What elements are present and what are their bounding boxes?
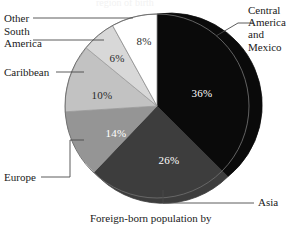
callout-label-asia[interactable]: Asia (258, 196, 278, 208)
figure-caption: Foreign-born population by (90, 212, 212, 224)
slice-label-central-america: 36% (192, 87, 213, 99)
slice-label-other: 8% (136, 35, 151, 47)
slice-label-south-america: 6% (109, 52, 124, 64)
callout-label-central-america[interactable]: Central America and Mexico (248, 4, 286, 53)
callout-label-caribbean[interactable]: Caribbean (4, 66, 49, 78)
callout-label-other[interactable]: Other (4, 12, 29, 24)
callout-label-europe[interactable]: Europe (4, 171, 36, 183)
slice-label-caribbean: 10% (92, 89, 113, 101)
callout-label-south-america[interactable]: South America (4, 25, 42, 49)
pie-chart-figure: region of birth 36% 26% 14% 10% 6% 8% Ot… (0, 0, 303, 229)
slice-label-europe: 14% (106, 127, 127, 139)
slice-label-asia: 26% (159, 154, 180, 166)
